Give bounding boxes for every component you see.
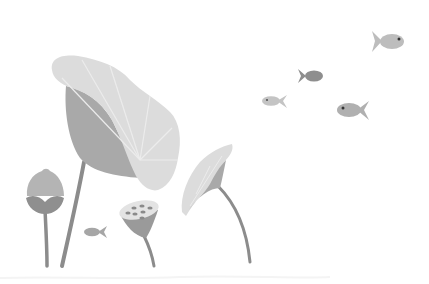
small-leaf-stem: [218, 186, 250, 262]
seed-pod-stem: [144, 236, 154, 266]
fish-icon: [372, 31, 404, 52]
faint-water-line: [0, 276, 330, 278]
illustration-canvas: [0, 0, 429, 284]
lotus-fish-illustration: [0, 0, 429, 284]
bud-stem: [45, 210, 47, 266]
large-leaf-stem: [62, 162, 84, 266]
fish-icon: [84, 226, 107, 238]
fish-icon: [262, 95, 287, 108]
fish-icon: [298, 69, 323, 83]
lotus-bud-top: [27, 169, 64, 196]
lotus-bud-base: [26, 196, 64, 214]
fish-icon: [337, 101, 369, 120]
